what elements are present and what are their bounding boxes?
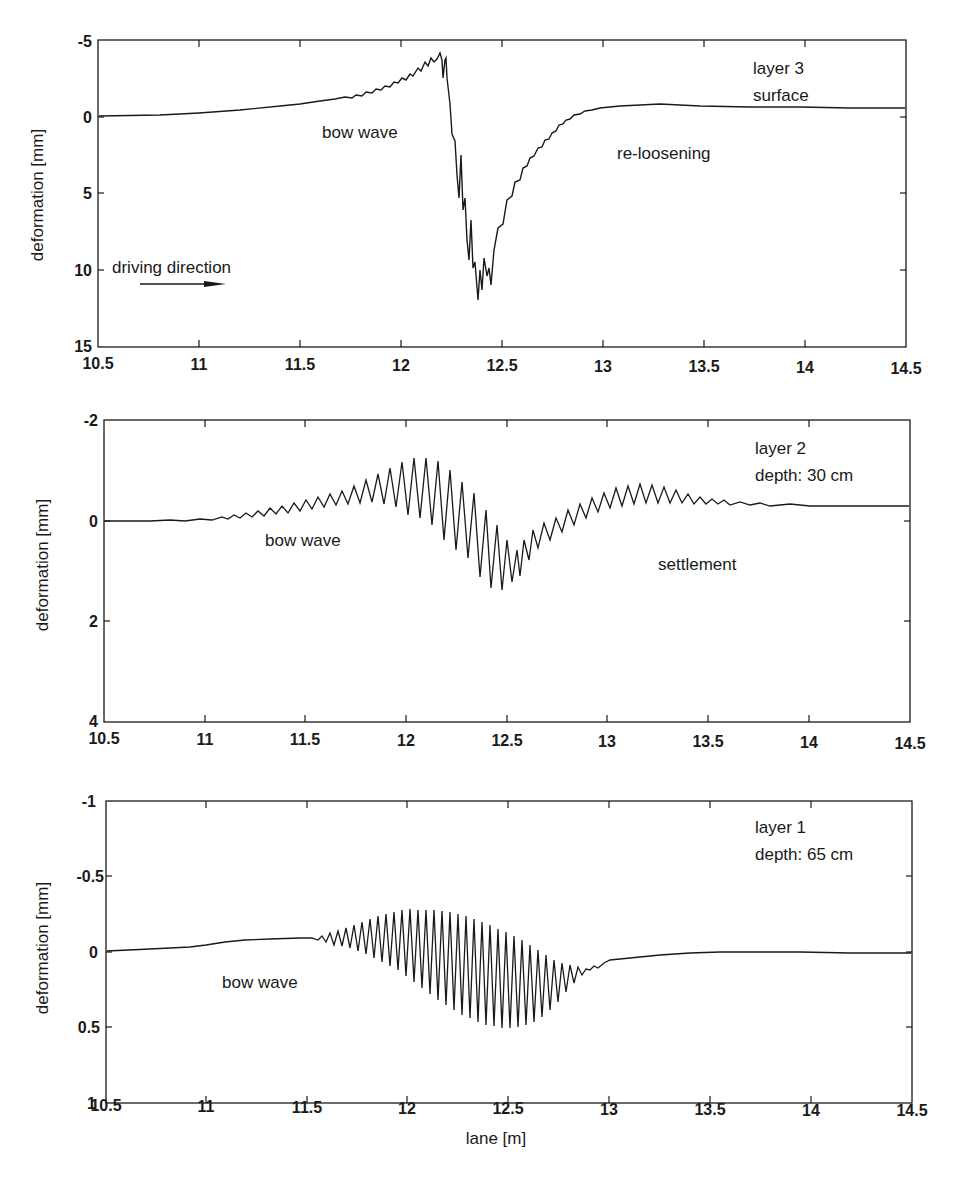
x-tick: 14 xyxy=(800,734,818,751)
annotation-layer-desc: surface xyxy=(753,86,809,105)
y-tick: -2 xyxy=(84,412,98,429)
annotation-driving-direction: driving direction xyxy=(112,258,231,277)
y-tick: 15 xyxy=(74,338,92,355)
y-tick: 0.5 xyxy=(78,1019,100,1036)
x-tick: 12.5 xyxy=(491,732,522,749)
chart-layer3-surface: -5 0 5 10 15 10.5 11 11.5 12 12.5 13 13.… xyxy=(0,0,956,390)
x-tick: 13 xyxy=(598,733,616,750)
x-tick: 11 xyxy=(197,731,214,748)
y-tick: 0 xyxy=(83,109,92,126)
y-axis-label: deformation [mm] xyxy=(28,129,47,261)
x-tick-labels: 10.5 11 11.5 12 12.5 13 13.5 14 14.5 xyxy=(88,730,925,752)
annotation-layer: layer 3 xyxy=(753,59,804,78)
x-tick: 12 xyxy=(398,1100,416,1117)
x-axis-label: lane [m] xyxy=(466,1129,526,1148)
x-tick: 12 xyxy=(392,357,410,374)
annotation-bow-wave: bow wave xyxy=(265,531,341,550)
x-tick: 12.5 xyxy=(492,1100,523,1117)
y-tick-labels: -1 -0.5 0 0.5 1 xyxy=(76,793,104,1112)
y-tick: 0 xyxy=(89,513,98,530)
x-tick: 10.5 xyxy=(82,355,113,372)
x-tick: 11.5 xyxy=(285,356,315,373)
x-tick: 14.5 xyxy=(890,360,921,377)
y-tick: 10 xyxy=(74,262,92,279)
x-tick: 11 xyxy=(198,1098,215,1115)
annotation-bow-wave: bow wave xyxy=(222,973,298,992)
x-tick: 14 xyxy=(796,359,814,376)
x-tick: 13.5 xyxy=(688,358,719,375)
y-tick: 5 xyxy=(83,185,92,202)
x-tick-labels: 10.5 11 11.5 12 12.5 13 13.5 14 14.5 xyxy=(82,355,921,377)
chart-layer2-30cm: -2 0 2 4 10.5 11 11.5 12 12.5 13 13.5 14… xyxy=(0,390,956,770)
y-tick: 0 xyxy=(89,944,98,961)
arrow-right-icon xyxy=(140,281,226,287)
annotation-layer-desc: depth: 30 cm xyxy=(755,466,853,485)
annotation-layer-desc: depth: 65 cm xyxy=(755,845,853,864)
y-axis-label: deformation [mm] xyxy=(33,499,52,631)
x-tick: 11 xyxy=(191,356,208,373)
y-tick-labels: -5 0 5 10 15 xyxy=(74,33,92,355)
y-tick: -1 xyxy=(82,793,96,810)
annotation-settlement: settlement xyxy=(658,555,737,574)
y-tick: 4 xyxy=(89,713,98,730)
y-axis xyxy=(98,117,906,270)
x-tick: 13 xyxy=(600,1101,618,1118)
y-tick: -0.5 xyxy=(76,868,104,885)
x-tick: 11.5 xyxy=(292,1099,322,1116)
x-tick: 10.5 xyxy=(88,730,119,747)
x-tick: 12.5 xyxy=(486,357,517,374)
chart-layer1-65cm: -1 -0.5 0 0.5 1 10.5 11 11.5 12 12.5 13 … xyxy=(0,770,956,1190)
data-line xyxy=(107,909,911,1028)
x-tick: 10.5 xyxy=(90,1097,121,1114)
x-tick: 12 xyxy=(397,732,415,749)
annotation-layer: layer 2 xyxy=(755,439,806,458)
y-tick: 2 xyxy=(89,613,98,630)
x-tick: 14.5 xyxy=(896,1102,927,1119)
x-tick: 13 xyxy=(594,358,612,375)
x-tick: 11.5 xyxy=(290,731,320,748)
y-tick: -5 xyxy=(78,33,92,50)
annotation-re-loosening: re-loosening xyxy=(617,144,711,163)
x-tick: 13.5 xyxy=(692,733,723,750)
x-tick: 14.5 xyxy=(894,735,925,752)
x-tick: 14 xyxy=(802,1102,820,1119)
x-tick: 13.5 xyxy=(694,1101,725,1118)
y-axis xyxy=(104,521,910,621)
x-tick-labels: 10.5 11 11.5 12 12.5 13 13.5 14 14.5 xyxy=(90,1097,927,1119)
annotation-layer: layer 1 xyxy=(755,818,806,837)
y-axis-label: deformation [mm] xyxy=(33,882,52,1014)
annotations: bow wave settlement layer 2 depth: 30 cm xyxy=(265,439,853,574)
annotation-bow-wave: bow wave xyxy=(322,123,398,142)
x-axis xyxy=(199,40,805,347)
y-tick-labels: -2 0 2 4 xyxy=(84,412,98,730)
